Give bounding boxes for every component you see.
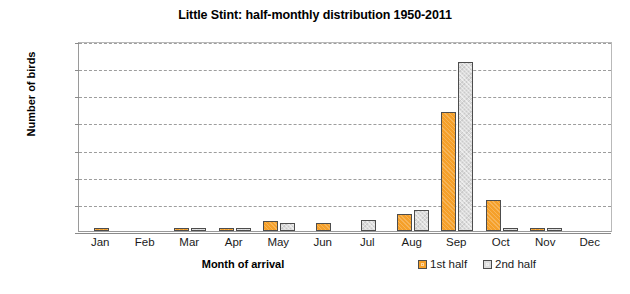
bar-group-jul bbox=[346, 43, 391, 231]
bar-nov-first-half bbox=[530, 228, 545, 231]
x-tick-label-dec: Dec bbox=[568, 236, 613, 249]
bar-sep-second-half bbox=[458, 62, 473, 231]
x-tick-label-may: May bbox=[256, 236, 301, 249]
bar-group-nov bbox=[524, 43, 569, 231]
y-axis-title: Number of birds bbox=[25, 19, 37, 169]
bar-group-aug bbox=[391, 43, 436, 231]
bar-oct-first-half bbox=[486, 200, 501, 231]
bar-nov-second-half bbox=[547, 228, 562, 231]
bar-group-apr bbox=[213, 43, 258, 231]
bar-may-first-half bbox=[263, 221, 278, 231]
bar-group-may bbox=[257, 43, 302, 231]
bar-mar-first-half bbox=[174, 228, 189, 231]
legend-label: 1st half bbox=[430, 258, 467, 270]
bar-oct-second-half bbox=[503, 228, 518, 231]
y-tick-mark-0 bbox=[75, 233, 79, 234]
x-tick-label-jul: Jul bbox=[345, 236, 390, 249]
bar-group-jun bbox=[302, 43, 347, 231]
x-tick-label-feb: Feb bbox=[123, 236, 168, 249]
bar-group-mar bbox=[168, 43, 213, 231]
gridline-0 bbox=[79, 233, 611, 234]
bar-aug-first-half bbox=[397, 214, 412, 231]
x-tick-label-sep: Sep bbox=[434, 236, 479, 249]
x-tick-label-aug: Aug bbox=[390, 236, 435, 249]
bar-jun-first-half bbox=[316, 223, 331, 231]
bar-group-sep bbox=[435, 43, 480, 231]
bar-group-oct bbox=[480, 43, 525, 231]
x-tick-label-nov: Nov bbox=[523, 236, 568, 249]
legend-entry-second-half: 2nd half bbox=[483, 258, 536, 270]
x-tick-label-apr: Apr bbox=[212, 236, 257, 249]
bar-jan-first-half bbox=[94, 228, 109, 231]
x-tick-label-mar: Mar bbox=[167, 236, 212, 249]
bar-mar-second-half bbox=[191, 228, 206, 231]
x-tick-label-jun: Jun bbox=[301, 236, 346, 249]
bar-group-jan bbox=[79, 43, 124, 231]
x-tick-label-jan: Jan bbox=[78, 236, 123, 249]
x-axis-tick-labels: JanFebMarAprMayJunJulAugSepOctNovDec bbox=[78, 236, 612, 254]
x-axis-title: Month of arrival bbox=[78, 258, 408, 270]
legend-swatch-icon-second-half bbox=[483, 260, 492, 269]
chart-title: Little Stint: half-monthly distribution … bbox=[0, 8, 630, 22]
bar-group-feb bbox=[124, 43, 169, 231]
chart-legend: 1st half2nd half bbox=[418, 258, 536, 270]
legend-entry-first-half: 1st half bbox=[418, 258, 467, 270]
bar-chart: Little Stint: half-monthly distribution … bbox=[0, 0, 630, 294]
bar-group-dec bbox=[569, 43, 614, 231]
bar-apr-first-half bbox=[219, 228, 234, 231]
bar-apr-second-half bbox=[236, 228, 251, 231]
bar-aug-second-half bbox=[414, 210, 429, 231]
legend-label: 2nd half bbox=[495, 258, 536, 270]
bar-sep-first-half bbox=[441, 112, 456, 231]
legend-swatch-icon-first-half bbox=[418, 260, 427, 269]
bar-jul-second-half bbox=[361, 220, 376, 231]
plot-area: 050100150200250300350 bbox=[78, 42, 612, 232]
x-tick-label-oct: Oct bbox=[479, 236, 524, 249]
bar-may-second-half bbox=[280, 223, 295, 231]
